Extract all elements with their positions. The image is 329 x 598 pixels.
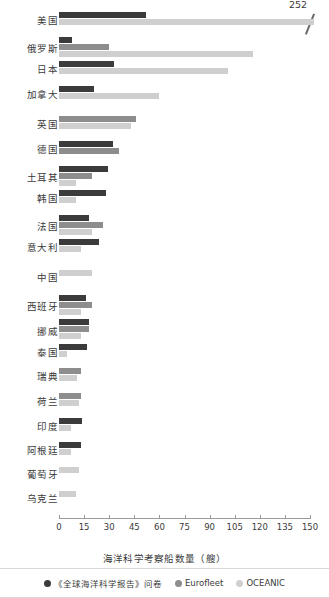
bar-group (59, 295, 92, 316)
x-axis-tick-label: 0 (56, 522, 61, 532)
x-axis-tick (310, 515, 311, 519)
bar-euro (59, 302, 92, 308)
category-label: 西班牙 (27, 299, 58, 313)
legend-item[interactable]: OCEANIC (236, 578, 285, 588)
bar-group (59, 239, 99, 253)
x-axis-tick-label: 105 (227, 522, 243, 532)
legend-swatch-icon (175, 580, 182, 587)
bar-survey (59, 61, 114, 67)
category-label: 瑞典 (37, 369, 58, 383)
category-label: 挪威 (37, 324, 58, 338)
category-label: 土耳其 (27, 170, 58, 184)
x-axis-tick (109, 515, 110, 519)
x-axis-tick-label: 45 (129, 522, 140, 532)
bar-survey (59, 86, 94, 92)
bar-oceanic (59, 246, 81, 252)
bar-group (59, 215, 103, 236)
bar-euro (59, 326, 89, 332)
bar-oceanic (59, 68, 228, 74)
bar-survey (59, 190, 106, 196)
overflow-value-label: 252 (289, 0, 307, 10)
bar-euro (59, 368, 81, 374)
x-axis-tick (235, 515, 236, 519)
legend-label: Eurofleet (185, 578, 223, 588)
bar-oceanic (59, 467, 79, 473)
bar-survey (59, 418, 82, 424)
bar-euro (59, 148, 119, 154)
bar-oceanic (59, 19, 314, 25)
bar-oceanic (59, 229, 92, 235)
bar-survey (59, 319, 89, 325)
bar-group (59, 393, 81, 407)
category-label: 阿根廷 (27, 443, 58, 457)
legend-swatch-icon (236, 580, 243, 587)
bar-euro (59, 173, 92, 179)
bar-group (59, 344, 87, 358)
bar-euro (59, 222, 103, 228)
bar-group (59, 86, 159, 100)
x-axis-tick-label: 150 (302, 522, 318, 532)
bar-oceanic (59, 425, 71, 431)
x-axis-tick-label: 30 (104, 522, 115, 532)
bar-survey (59, 215, 89, 221)
x-axis: 0153045607590105120135150 (0, 518, 329, 548)
bar-oceanic (59, 491, 76, 497)
x-axis-tick (210, 515, 211, 519)
bar-oceanic (59, 197, 76, 203)
category-label: 韩国 (37, 191, 58, 205)
category-label: 意大利 (27, 240, 58, 254)
bar-group (59, 491, 76, 498)
bar-survey (59, 239, 99, 245)
bar-group (59, 442, 81, 456)
bar-group (59, 166, 108, 187)
legend-swatch-icon (44, 580, 51, 587)
x-axis-tick-label: 60 (154, 522, 165, 532)
x-axis-tick (285, 515, 286, 519)
x-axis-tick (159, 515, 160, 519)
legend-item[interactable]: 《全球海洋科学报告》问卷 (44, 577, 162, 589)
bar-oceanic (59, 180, 76, 186)
bar-survey (59, 166, 108, 172)
bar-oceanic (59, 400, 79, 406)
x-axis-title: 海洋科学考察船数量（艘） (0, 551, 329, 565)
bar-group (59, 37, 253, 58)
bar-group (59, 12, 314, 26)
bar-survey (59, 37, 72, 43)
bar-group (59, 190, 106, 204)
x-axis-tick (185, 515, 186, 519)
category-label: 美国 (37, 13, 58, 27)
chart-legend: 《全球海洋科学报告》问卷EurofleetOCEANIC (0, 568, 329, 598)
bar-oceanic (59, 375, 77, 381)
bar-survey (59, 344, 87, 350)
category-label: 加拿大 (27, 87, 58, 101)
x-axis-tick-label: 90 (204, 522, 215, 532)
bar-oceanic (59, 351, 67, 357)
x-axis-tick (260, 515, 261, 519)
bar-group (59, 467, 79, 474)
bar-oceanic (59, 51, 253, 57)
category-label: 德国 (37, 142, 58, 156)
category-label: 英国 (37, 117, 58, 131)
bar-oceanic (59, 333, 81, 339)
x-axis-tick (134, 515, 135, 519)
bar-euro (59, 116, 136, 122)
x-axis-tick (84, 515, 85, 519)
bar-survey (59, 295, 86, 301)
x-axis-tick (59, 515, 60, 519)
bar-oceanic (59, 449, 71, 455)
legend-item[interactable]: Eurofleet (175, 578, 223, 588)
category-label: 泰国 (37, 345, 58, 359)
bar-survey (59, 12, 146, 18)
bar-oceanic (59, 270, 92, 276)
bar-group (59, 368, 81, 382)
bar-group (59, 319, 89, 340)
horizontal-bar-chart: 252美国俄罗斯日本加拿大英国德国土耳其韩国法国意大利中国西班牙挪威泰国瑞典荷兰… (0, 0, 329, 598)
bar-oceanic (59, 93, 159, 99)
bar-survey (59, 141, 113, 147)
category-label: 荷兰 (37, 394, 58, 408)
x-axis-tick-label: 135 (277, 522, 293, 532)
bar-oceanic (59, 309, 81, 315)
x-axis-tick-label: 15 (79, 522, 90, 532)
bar-group (59, 418, 82, 432)
bar-euro (59, 393, 81, 399)
